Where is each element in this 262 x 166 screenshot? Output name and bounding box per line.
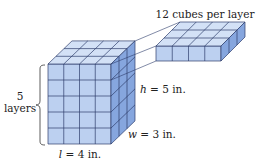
length-label: l = 4 in. <box>59 148 101 160</box>
layer-slab <box>156 22 245 61</box>
rectangular-prism <box>48 41 135 144</box>
height-label: h = 5 in. <box>140 83 186 95</box>
layers-word-label: layers <box>4 102 36 114</box>
width-label: w = 3 in. <box>128 128 176 140</box>
cubes-per-layer-label: 12 cubes per layer <box>155 8 255 20</box>
cube-diagram: 5 layers 12 cubes per layer h = 5 in. w … <box>0 0 262 166</box>
layers-brace <box>36 65 45 145</box>
layers-count-label: 5 <box>17 90 24 102</box>
